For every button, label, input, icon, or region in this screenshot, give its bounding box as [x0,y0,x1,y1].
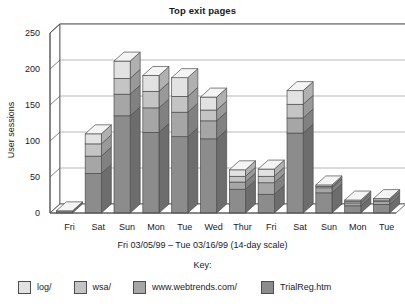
bar-segment [143,123,169,213]
bar-column [287,82,313,213]
plot-svg [0,20,405,220]
bar-segment [287,124,313,213]
chart-container: Top exit pages User sessions 25020015010… [0,0,405,306]
y-tick-label: 50 [10,173,40,182]
y-tick-label: 150 [10,101,40,110]
plot-area: User sessions [0,20,405,220]
y-tick-label: 0 [10,209,40,218]
legend-label: log/ [37,282,52,292]
legend-swatch-icon [133,281,146,294]
chart-title: Top exit pages [0,5,405,16]
bar-column [172,69,198,213]
legend-swatch-icon [18,281,31,294]
bar-column [316,176,342,213]
y-tick-label: 250 [10,29,40,38]
legend-title: Key: [0,260,405,270]
bar-column [143,66,169,213]
legend-swatch-icon [261,281,274,294]
legend-item-1[interactable]: wsa/ [74,281,112,294]
legend-swatch-icon [74,281,87,294]
legend: log/wsa/www.webtrends.com/TrialReg.htm [0,276,405,298]
x-tick-label-11: Tue [370,222,404,232]
bar-column [114,52,140,213]
plot-frame-left [50,24,60,213]
x-axis-title: Fri 03/05/99 – Tue 03/16/99 (14-day scal… [0,240,405,250]
legend-item-0[interactable]: log/ [18,281,52,294]
y-tick-label: 200 [10,65,40,74]
y-axis-title: User sessions [6,85,16,175]
legend-label: TrialReg.htm [280,282,331,292]
y-tick-label: 100 [10,137,40,146]
legend-label: www.webtrends.com/ [152,282,237,292]
bar-segment [172,128,198,213]
bar-column [201,88,227,213]
legend-item-3[interactable]: TrialReg.htm [261,281,331,294]
legend-label: wsa/ [93,282,112,292]
bar-segment [114,107,140,213]
bar-column [229,161,255,213]
bar-column [85,125,111,213]
legend-item-2[interactable]: www.webtrends.com/ [133,281,237,294]
bar-column [258,160,284,213]
bar-segment [201,130,227,213]
